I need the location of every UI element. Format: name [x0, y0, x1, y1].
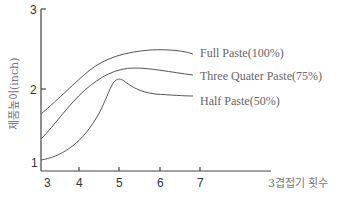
- x-tick-label-5: 5: [116, 176, 123, 190]
- series-full-paste-line: [41, 50, 193, 114]
- x-tick-label-3: 3: [44, 176, 51, 190]
- series-half-paste-line: [41, 79, 193, 160]
- y-tick-label-1: 1: [31, 156, 38, 170]
- y-tick-label-2: 2: [30, 83, 37, 97]
- x-tick-label-4: 4: [76, 176, 83, 190]
- y-axis-title: 제품높이(inch): [8, 58, 21, 130]
- series-label-full-paste: Full Paste(100%): [200, 46, 284, 60]
- x-tick-label-6: 6: [157, 176, 164, 190]
- series-three-quater-paste-line: [41, 68, 193, 139]
- series-label-three-quater-paste: Three Quater Paste(75%): [200, 69, 322, 83]
- line-chart: 3 2 1 3 4 5 6 7 3겹접기 횟수 제품높이(inch) Full …: [0, 0, 337, 202]
- series-label-half-paste: Half Paste(50%): [200, 94, 280, 108]
- x-tick-label-7: 7: [197, 176, 204, 190]
- y-tick-label-3: 3: [30, 3, 37, 17]
- x-axis-title: 3겹접기 횟수: [268, 177, 329, 190]
